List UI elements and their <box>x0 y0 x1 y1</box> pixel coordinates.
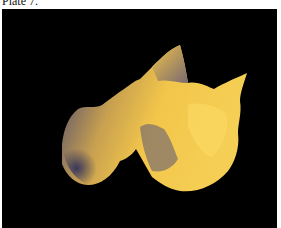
surface-peak <box>152 45 188 83</box>
plate-image <box>2 9 277 228</box>
surface-render <box>2 9 277 228</box>
plate-caption: Plate 7. <box>2 0 38 7</box>
